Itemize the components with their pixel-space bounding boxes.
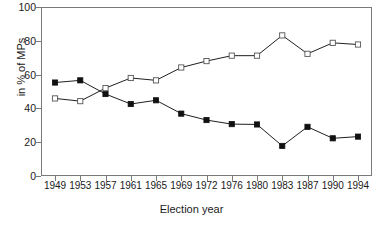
- series-line-open-squares: [55, 35, 358, 101]
- data-point-filled-squares-1957: [103, 91, 108, 96]
- data-point-filled-squares-1980: [254, 122, 259, 127]
- data-point-filled-squares-1953: [78, 78, 83, 83]
- data-point-open-squares-1953: [78, 99, 83, 104]
- data-point-open-squares-1969: [179, 65, 184, 70]
- data-point-open-squares-1965: [153, 78, 158, 83]
- data-point-open-squares-1980: [254, 53, 259, 58]
- data-point-open-squares-1961: [128, 75, 133, 80]
- chart-root: in % of MPs Election year 020406080100 1…: [0, 0, 383, 233]
- data-point-open-squares-1987: [305, 51, 310, 56]
- data-point-open-squares-1957: [103, 86, 108, 91]
- data-point-filled-squares-1987: [305, 124, 310, 129]
- data-point-open-squares-1990: [330, 40, 335, 45]
- data-point-filled-squares-1961: [128, 101, 133, 106]
- chart-plot-area: [0, 0, 383, 233]
- data-point-filled-squares-1983: [280, 143, 285, 148]
- data-point-filled-squares-1969: [179, 111, 184, 116]
- data-point-filled-squares-1965: [153, 98, 158, 103]
- data-point-filled-squares-1976: [229, 122, 234, 127]
- data-point-filled-squares-1990: [330, 136, 335, 141]
- data-point-filled-squares-1994: [355, 134, 360, 139]
- data-point-open-squares-1976: [229, 53, 234, 58]
- data-point-open-squares-1994: [355, 42, 360, 47]
- data-point-open-squares-1949: [52, 96, 57, 101]
- data-point-filled-squares-1949: [52, 80, 57, 85]
- series-layer: [52, 33, 360, 149]
- data-point-open-squares-1983: [280, 33, 285, 38]
- data-point-open-squares-1972: [204, 58, 209, 63]
- data-point-filled-squares-1972: [204, 117, 209, 122]
